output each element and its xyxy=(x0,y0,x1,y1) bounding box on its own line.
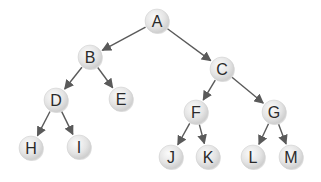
node-label: F xyxy=(191,104,201,121)
node-label: C xyxy=(216,61,228,78)
edge-arrow-g-m xyxy=(279,124,286,144)
node-label: K xyxy=(203,149,214,166)
tree-node-h: H xyxy=(19,136,44,161)
tree-node-l: L xyxy=(241,145,266,170)
tree-node-m: M xyxy=(279,145,304,170)
tree-node-c: C xyxy=(210,57,235,82)
edges-group xyxy=(37,27,286,145)
node-label: I xyxy=(77,139,81,156)
edge-arrow-b-e xyxy=(98,67,113,87)
node-label: H xyxy=(25,140,37,157)
edge-arrow-d-i xyxy=(62,112,73,135)
tree-node-b: B xyxy=(78,45,103,70)
edge-arrow-c-f xyxy=(203,80,215,100)
node-label: E xyxy=(116,91,127,108)
node-label: M xyxy=(284,149,297,166)
edge-arrow-d-h xyxy=(37,112,50,136)
tree-node-e: E xyxy=(109,87,134,112)
edge-arrow-c-g xyxy=(232,77,263,103)
edge-arrow-a-c xyxy=(167,29,210,61)
edge-arrow-f-k xyxy=(199,125,204,144)
node-label: D xyxy=(50,92,62,109)
tree-node-k: K xyxy=(196,145,221,170)
node-label: J xyxy=(167,149,175,166)
node-label: A xyxy=(152,13,163,30)
nodes-group: ABCDEFGHIJKLM xyxy=(19,9,304,170)
node-label: L xyxy=(249,149,258,166)
edge-arrow-f-j xyxy=(178,123,190,144)
tree-node-d: D xyxy=(44,88,69,113)
tree-diagram: ABCDEFGHIJKLM xyxy=(0,0,321,182)
tree-node-g: G xyxy=(262,100,287,125)
tree-node-i: I xyxy=(67,135,92,160)
node-label: G xyxy=(268,104,280,121)
node-label: B xyxy=(85,49,96,66)
edge-arrow-g-l xyxy=(259,124,269,145)
tree-node-a: A xyxy=(145,9,170,34)
edge-arrow-b-d xyxy=(65,67,82,89)
edge-arrow-a-b xyxy=(102,27,145,50)
tree-node-f: F xyxy=(184,100,209,125)
tree-node-j: J xyxy=(159,145,184,170)
